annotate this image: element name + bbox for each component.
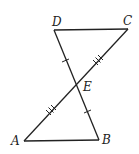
geometry-diagram: D C E A B <box>0 0 139 154</box>
label-d: D <box>51 15 62 29</box>
triple-tick-mark-ec <box>93 55 103 65</box>
segment-dc <box>54 29 128 30</box>
label-b: B <box>101 133 111 147</box>
label-a: A <box>10 134 20 148</box>
segment-db <box>54 30 99 140</box>
label-e: E <box>82 80 92 94</box>
triple-tick-mark-ae <box>46 105 56 115</box>
segment-ab <box>24 140 99 141</box>
label-c: C <box>123 14 132 28</box>
